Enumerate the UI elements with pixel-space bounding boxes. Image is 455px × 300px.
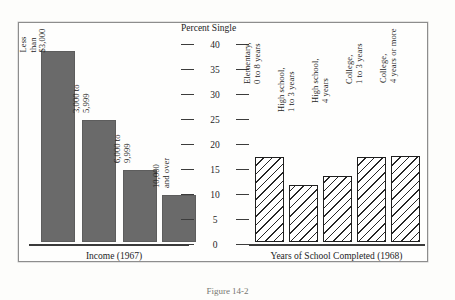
education-bar-label-3: College, 1 to 3 years bbox=[345, 43, 364, 84]
education-bar-elementary bbox=[255, 157, 284, 242]
axis-tick-5: 5 bbox=[181, 219, 249, 220]
axis-title: Percent Single bbox=[181, 23, 236, 33]
tick-dash-left bbox=[181, 169, 194, 170]
figure-frame: Less than $3,000 3,000 to 5,999 6,000 to… bbox=[18, 22, 428, 262]
education-axis-baseline bbox=[249, 244, 425, 246]
tick-dash-left bbox=[181, 94, 194, 95]
tick-dash-left bbox=[181, 244, 194, 245]
tick-dash-right bbox=[236, 219, 249, 220]
education-bar-high-school-4 bbox=[323, 176, 352, 242]
education-bar-label-4: College, 4 years or more bbox=[379, 28, 398, 83]
education-axis-caption: Years of School Completed (1968) bbox=[244, 251, 429, 261]
education-bar-label-2: High school, 4 years bbox=[311, 58, 330, 103]
tick-dash-right bbox=[236, 119, 249, 120]
axis-tick-40: 40 bbox=[181, 44, 249, 45]
axis-tick-25: 25 bbox=[181, 119, 249, 120]
education-bar-college-1-3 bbox=[357, 157, 386, 242]
education-bar-label-1: High school, 1 to 3 years bbox=[277, 67, 296, 112]
tick-dash-left bbox=[181, 194, 194, 195]
education-bar-college-4-plus bbox=[391, 156, 420, 242]
axis-tick-0: 0 bbox=[181, 244, 249, 245]
income-bar-3000-5999 bbox=[82, 120, 116, 242]
percent-single-axis: Percent Single 40 35 30 25 20 1 bbox=[181, 23, 251, 249]
figure-caption: Figure 14-2 bbox=[0, 286, 455, 296]
axis-tick-35: 35 bbox=[181, 69, 249, 70]
income-bar-label-0: Less than $3,000 bbox=[19, 29, 48, 53]
tick-dash-left bbox=[181, 144, 194, 145]
tick-dash-left bbox=[181, 119, 194, 120]
education-bar-chart: Elementary, 0 to 8 years High school, 1 … bbox=[251, 25, 429, 251]
tick-dash-right bbox=[236, 144, 249, 145]
income-bar-less-than-3000 bbox=[41, 51, 75, 242]
education-bar-high-school-1-3 bbox=[289, 185, 318, 242]
axis-tick-15: 15 bbox=[181, 169, 249, 170]
income-axis-caption: Income (1967) bbox=[29, 251, 199, 261]
income-bar-chart: Less than $3,000 3,000 to 5,999 6,000 to… bbox=[29, 25, 189, 251]
tick-dash-left bbox=[181, 44, 194, 45]
axis-tick-10: 10 bbox=[181, 194, 249, 195]
tick-dash-right bbox=[236, 194, 249, 195]
tick-dash-right bbox=[236, 244, 249, 245]
income-bar-label-2: 6,000 to 9,999 bbox=[113, 134, 132, 163]
tick-dash-right bbox=[236, 169, 249, 170]
tick-dash-right bbox=[236, 94, 249, 95]
tick-dash-left bbox=[181, 219, 194, 220]
axis-tick-30: 30 bbox=[181, 94, 249, 95]
income-bar-label-3: 10,000 and over bbox=[152, 158, 171, 188]
axis-tick-20: 20 bbox=[181, 144, 249, 145]
income-axis-baseline bbox=[29, 244, 189, 246]
income-bar-label-1: 3,000 to 5,999 bbox=[72, 84, 91, 113]
education-bar-label-0: Elementary, 0 to 8 years bbox=[243, 42, 262, 84]
tick-dash-left bbox=[181, 69, 194, 70]
